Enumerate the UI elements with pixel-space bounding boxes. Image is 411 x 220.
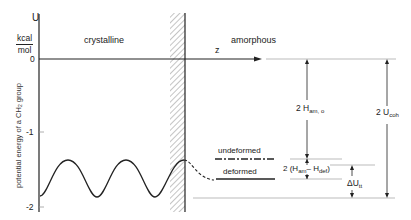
h-diff-label: 2 (Ham– Hdef) — [283, 165, 330, 174]
h-diff-sub-def: def — [319, 168, 327, 174]
z-axis-symbol: z — [215, 46, 220, 55]
crystalline-potential-curve — [40, 160, 184, 197]
deformed-label: deformed — [223, 168, 257, 176]
y-tick-minus-2: -2 — [26, 203, 34, 212]
y-tick-minus-1: -1 — [26, 128, 34, 137]
y-axis-unit: kcal mol — [16, 34, 33, 54]
u-coh-arrow — [385, 59, 389, 198]
h-am0-sub: am, o — [309, 108, 324, 114]
region-crystalline: crystalline — [84, 36, 124, 45]
y-axis-title-sub: 2 — [17, 104, 23, 107]
delta-u-tt-sub: tt — [359, 183, 362, 189]
unit-numerator: kcal — [16, 34, 33, 45]
delta-u-tt-label: ΔUtt — [346, 179, 363, 189]
region-amorphous: amorphous — [231, 36, 276, 45]
undeformed-label: undeformed — [218, 147, 261, 155]
y-axis — [39, 14, 44, 212]
interface-wall — [170, 13, 185, 212]
h-diff-pre: 2 (H — [283, 164, 298, 173]
h-am0-label: 2 Ham, o — [296, 104, 324, 114]
y-tick-0: 0 — [30, 55, 35, 64]
unit-denominator: mol — [16, 45, 33, 55]
delta-u-tt-main: ΔU — [347, 178, 359, 188]
y-axis-symbol: U — [32, 13, 39, 23]
u-coh-sub: coh — [389, 112, 399, 118]
decay-dashed-curve — [184, 160, 214, 180]
z-axis — [39, 57, 396, 62]
y-axis-title-post: group — [14, 83, 23, 104]
y-axis-title-pre: potential energy of a CH — [14, 107, 23, 188]
y-axis-title: potential energy of a CH2 group — [14, 83, 23, 188]
h-diff-mid: – H — [306, 164, 318, 173]
h-am0-main: 2 H — [296, 103, 309, 113]
u-coh-label: 2 Ucoh — [376, 108, 399, 118]
h-diff-post: ) — [327, 164, 330, 173]
u-coh-main: 2 U — [376, 107, 389, 117]
